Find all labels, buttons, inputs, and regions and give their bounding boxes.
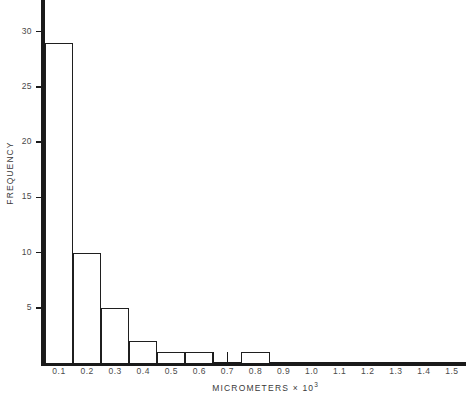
y-axis-tick: [36, 86, 42, 88]
y-axis-title: FREQUENCY: [0, 0, 16, 400]
x-axis-tick-label: 1.5: [437, 366, 467, 376]
x-axis-tick-label: 0.3: [100, 366, 130, 376]
y-axis-tick: [36, 31, 42, 33]
x-axis-tick-label: 0.6: [184, 366, 214, 376]
x-axis-tick-label: 0.7: [212, 366, 242, 376]
x-axis-tick-label: 0.9: [269, 366, 299, 376]
histogram-bar: [157, 352, 185, 363]
y-axis-tick: [36, 141, 42, 143]
x-axis-tick-label: 0.1: [44, 366, 74, 376]
x-axis-tick-label: 1.4: [409, 366, 439, 376]
y-axis-tick: [36, 307, 42, 309]
x-axis-title-exponent: 3: [314, 381, 318, 388]
x-axis-tick-label: 1.0: [297, 366, 327, 376]
histogram-figure: 51015202530 0.10.20.30.40.50.60.70.80.91…: [0, 0, 471, 400]
x-axis-title-text: MICROMETERS × 10: [212, 383, 314, 393]
x-axis-tick-label: 0.8: [241, 366, 271, 376]
histogram-bar: [129, 341, 157, 363]
plot-area: 51015202530 0.10.20.30.40.50.60.70.80.91…: [0, 0, 471, 400]
x-axis-tick-label: 1.1: [325, 366, 355, 376]
histogram-bar: [101, 308, 129, 363]
y-axis-title-text: FREQUENCY: [5, 93, 15, 253]
y-axis-tick: [36, 197, 42, 199]
x-axis-tick-label: 1.3: [381, 366, 411, 376]
x-axis-tick-label: 1.2: [353, 366, 383, 376]
histogram-bar: [185, 352, 213, 363]
x-axis-tick-label: 0.4: [128, 366, 158, 376]
histogram-bar: [241, 352, 269, 363]
histogram-bar: [45, 43, 73, 363]
x-axis-tick-label: 0.5: [156, 366, 186, 376]
histogram-bar: [73, 253, 101, 364]
x-axis-tick: [227, 352, 228, 363]
y-axis-tick: [36, 252, 42, 254]
x-axis-tick-label: 0.2: [72, 366, 102, 376]
x-axis-title: MICROMETERS × 103: [140, 381, 390, 393]
